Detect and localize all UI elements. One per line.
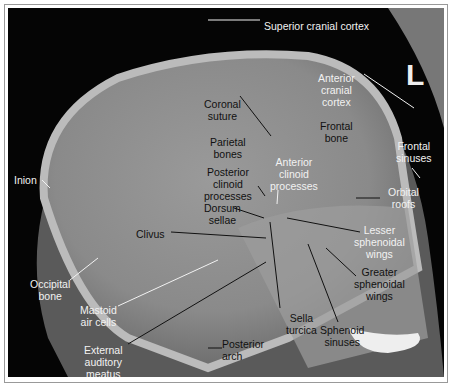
label-inion: Inion bbox=[14, 174, 37, 186]
label-greater-sphenoidal-wings: Greater sphenoidal wings bbox=[354, 266, 405, 302]
label-sella-turcica: Sella turcica bbox=[286, 312, 317, 336]
label-posterior-arch: Posterior arch bbox=[222, 338, 264, 362]
label-lesser-sphenoidal-wings: Lesser sphenoidal wings bbox=[354, 224, 405, 260]
skull-lateral-radiograph: L Superior cranial cortexAnterior crania… bbox=[8, 8, 444, 377]
label-anterior-cranial-cortex: Anterior cranial cortex bbox=[318, 72, 355, 108]
label-sphenoid-sinuses: Sphenoid sinuses bbox=[320, 324, 364, 348]
label-superior-cranial-cortex: Superior cranial cortex bbox=[264, 20, 369, 32]
label-anterior-clinoid-processes: Anterior clinoid processes bbox=[270, 156, 318, 192]
label-posterior-clinoid-processes: Posterior clinoid processes bbox=[204, 166, 252, 202]
label-coronal-suture: Coronal suture bbox=[204, 98, 241, 122]
label-mastoid-air-cells: Mastoid air cells bbox=[80, 304, 117, 328]
label-dorsum-sellae: Dorsum sellae bbox=[204, 202, 241, 226]
label-occipital-bone: Occipital bone bbox=[30, 278, 70, 302]
label-frontal-sinuses: Frontal sinuses bbox=[396, 140, 432, 164]
label-orbital-roofs: Orbital roofs bbox=[388, 186, 419, 210]
label-frontal-bone: Frontal bone bbox=[320, 120, 353, 144]
label-external-auditory-meatus: External auditory meatus bbox=[84, 344, 123, 377]
label-parietal-bones: Parietal bones bbox=[210, 136, 246, 160]
label-clivus: Clivus bbox=[136, 228, 165, 240]
orientation-marker: L bbox=[406, 60, 424, 90]
